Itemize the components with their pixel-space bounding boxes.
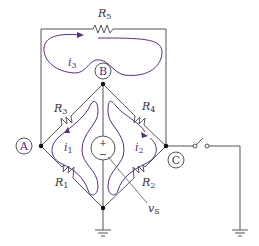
r1-label: R1 [54,176,68,190]
arrow-i2 [141,132,148,138]
arrow-i3 [77,32,84,38]
r2-label: R2 [141,176,155,190]
node-c-label: C [172,154,180,167]
vs-label: vS [148,202,160,216]
r5-label: R5 [97,7,111,21]
i2-label: i2 [135,141,144,155]
r3-label: R3 [53,102,67,116]
node-a-label: A [19,140,29,153]
i3-label: i3 [68,56,77,70]
ground-icon [95,230,111,236]
ground-icon [232,230,248,236]
node-a-dot [39,144,43,148]
resistor-r5 [93,25,113,33]
switch-contact-right [205,144,209,148]
node-b-dot [101,82,105,86]
circuit-diagram: + − B A C R5 R3 R4 R1 R2 i3 i1 i2 [0,0,259,246]
source-minus: − [99,149,107,160]
i1-label: i1 [64,141,73,155]
source-plus: + [99,137,107,148]
r4-label: R4 [141,100,155,114]
node-b-label: B [99,65,107,78]
node-c-dot [164,144,168,148]
resistor-r4 [133,114,145,125]
arrow-i1 [64,127,70,133]
switch-blade [196,138,203,145]
node-bottom-dot [101,206,105,210]
